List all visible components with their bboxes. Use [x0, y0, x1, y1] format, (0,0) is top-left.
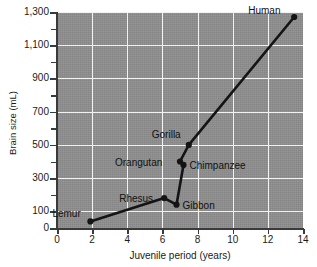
- y-tick-mark: [50, 78, 56, 80]
- x-tick-mark: [162, 229, 164, 234]
- y-tick-mark: [50, 228, 56, 230]
- x-tick-label: 0: [42, 234, 72, 245]
- y-tick-mark: [50, 178, 56, 180]
- y-tick-label: 1,300: [1, 7, 49, 17]
- x-tick-label: 10: [218, 234, 248, 245]
- x-tick-mark: [198, 229, 200, 234]
- y-tick-label: 100: [1, 206, 49, 216]
- x-tick-label: 14: [288, 234, 317, 245]
- point-label-lemur: Lemur: [52, 208, 80, 219]
- gridline-v: [233, 12, 234, 228]
- x-tick-label: 4: [112, 234, 142, 245]
- x-tick-label: 6: [147, 234, 177, 245]
- x-tick-label: 8: [183, 234, 213, 245]
- brain-size-chart: 01003005007009001,1001,300 02468101214 B…: [0, 0, 317, 267]
- y-axis-line: [56, 12, 58, 229]
- point-label-gibbon: Gibbon: [182, 200, 214, 211]
- gridline-v: [268, 12, 269, 228]
- y-tick-label: 1,100: [1, 40, 49, 50]
- x-axis-title: Juvenile period (years): [57, 250, 303, 261]
- gridline-v: [92, 12, 93, 228]
- y-tick-mark: [50, 12, 56, 14]
- x-tick-mark: [92, 229, 94, 234]
- plot-area: [57, 12, 303, 228]
- point-label-orangutan: Orangutan: [115, 157, 162, 168]
- x-tick-label: 12: [253, 234, 283, 245]
- x-tick-mark: [303, 229, 305, 234]
- gridline-h: [57, 145, 303, 146]
- y-tick-label: 0: [1, 223, 49, 233]
- gridline-h: [57, 211, 303, 212]
- y-tick-mark: [50, 45, 56, 47]
- gridline-h: [57, 178, 303, 179]
- point-label-rhesus: Rhesus: [119, 193, 153, 204]
- point-label-gorilla: Gorilla: [152, 129, 181, 140]
- point-label-human: Human: [248, 5, 280, 16]
- y-tick-mark-minor: [51, 29, 56, 31]
- x-tick-mark: [268, 229, 270, 234]
- y-tick-mark-minor: [51, 62, 56, 64]
- gridline-v: [198, 12, 199, 228]
- y-tick-mark: [50, 112, 56, 114]
- y-tick-mark-minor: [51, 162, 56, 164]
- y-axis-title: Brain size (mL): [8, 63, 18, 183]
- gridline-h: [57, 112, 303, 113]
- x-tick-label: 2: [77, 234, 107, 245]
- x-tick-mark: [57, 229, 59, 234]
- gridline-v: [162, 12, 163, 228]
- y-tick-mark-minor: [51, 95, 56, 97]
- x-tick-mark: [127, 229, 129, 234]
- gridline-h: [57, 45, 303, 46]
- y-tick-mark-minor: [51, 128, 56, 130]
- y-tick-mark-minor: [51, 195, 56, 197]
- y-tick-mark: [50, 145, 56, 147]
- x-tick-mark: [233, 229, 235, 234]
- point-label-chimpanzee: Chimpanzee: [190, 160, 246, 171]
- gridline-h: [57, 78, 303, 79]
